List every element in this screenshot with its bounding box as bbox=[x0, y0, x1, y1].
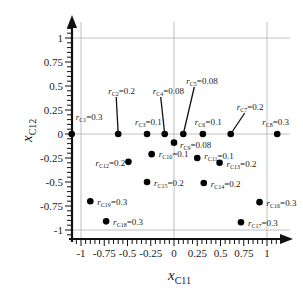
point-marker-icon bbox=[171, 139, 178, 146]
x-tick-label: 1 bbox=[264, 247, 270, 259]
x-tick-label: 0.5 bbox=[214, 247, 228, 259]
data-points: rC1=0.3rC2=0.2rC3=0.1rC4=0.08rC5=0.08rC6… bbox=[68, 76, 297, 229]
leader-line bbox=[231, 113, 245, 134]
data-point-c5: rC5=0.08 bbox=[180, 76, 218, 137]
y-axis-title: xC12 bbox=[19, 119, 38, 143]
axis-ticks bbox=[65, 28, 276, 246]
data-point-c12: rC12=0.2 bbox=[95, 158, 131, 169]
x-tick-label: 0.75 bbox=[234, 247, 254, 259]
data-point-c19: rC19=0.3 bbox=[87, 197, 128, 208]
point-marker-icon bbox=[256, 199, 263, 206]
y-tick-label: -1 bbox=[54, 224, 63, 236]
x-tick-label: 0 bbox=[171, 247, 177, 259]
point-marker-icon bbox=[144, 131, 151, 138]
point-marker-icon bbox=[200, 180, 207, 187]
point-marker-icon bbox=[200, 131, 207, 138]
y-tick-label: 0.25 bbox=[44, 104, 64, 116]
leader-line bbox=[161, 97, 165, 134]
point-marker-icon bbox=[148, 151, 155, 158]
point-label: rC5=0.08 bbox=[186, 76, 218, 87]
y-tick-label: -0.75 bbox=[40, 200, 63, 212]
data-point-c16: rC16=0.3 bbox=[256, 198, 297, 209]
x-tick-label: -0.75 bbox=[93, 247, 116, 259]
point-marker-icon bbox=[103, 218, 110, 225]
point-label: rC6=0.1 bbox=[195, 117, 222, 128]
data-point-c15: rC15=0.2 bbox=[144, 178, 184, 189]
point-label: rC16=0.3 bbox=[267, 198, 297, 209]
scatter-chart: -1-0.75-0.5-0.2500.250.50.75110.750.50.2… bbox=[0, 0, 303, 296]
data-point-c18: rC18=0.3 bbox=[103, 217, 144, 228]
y-tick-label: 0.75 bbox=[44, 56, 64, 68]
data-point-c1: rC1=0.3 bbox=[68, 112, 103, 137]
data-point-c7: rC7=0.2 bbox=[227, 102, 263, 137]
y-axis-arrow-icon bbox=[67, 15, 77, 28]
point-label: rC1=0.3 bbox=[76, 112, 103, 123]
data-point-c10: rC10=0.1 bbox=[148, 149, 188, 160]
x-tick-label: -0.25 bbox=[139, 247, 162, 259]
point-marker-icon bbox=[125, 159, 132, 166]
leader-line bbox=[116, 97, 118, 134]
axes bbox=[67, 15, 293, 244]
point-label: rC8=0.3 bbox=[262, 117, 289, 128]
x-tick-label: -0.5 bbox=[119, 247, 137, 259]
point-label: rC7=0.2 bbox=[237, 102, 264, 113]
point-label: rC12=0.2 bbox=[95, 158, 125, 169]
point-label: rC19=0.3 bbox=[97, 197, 127, 208]
y-tick-label: -0.5 bbox=[46, 176, 64, 188]
y-tick-label: -0.25 bbox=[40, 152, 63, 164]
point-marker-icon bbox=[216, 160, 223, 167]
y-tick-label: 1 bbox=[58, 32, 64, 44]
point-label: rC17=0.3 bbox=[248, 218, 278, 229]
point-marker-icon bbox=[238, 219, 245, 226]
y-tick-label: 0.5 bbox=[49, 80, 63, 92]
point-label: rC14=0.2 bbox=[211, 179, 241, 190]
y-tick-label: 0 bbox=[58, 128, 64, 140]
x-tick-label: 0.25 bbox=[188, 247, 208, 259]
x-axis-title: xC11 bbox=[167, 267, 191, 286]
x-tick-label: -1 bbox=[76, 247, 85, 259]
point-label: rC2=0.2 bbox=[108, 86, 135, 97]
point-label: rC18=0.3 bbox=[113, 217, 143, 228]
data-point-c2: rC2=0.2 bbox=[108, 86, 135, 137]
x-axis-arrow-icon bbox=[280, 234, 293, 244]
point-marker-icon bbox=[68, 131, 75, 138]
tick-labels: -1-0.75-0.5-0.2500.250.50.75110.750.50.2… bbox=[40, 32, 270, 259]
leader-line bbox=[183, 87, 194, 134]
point-label: rC3=0.1 bbox=[135, 117, 162, 128]
point-marker-icon bbox=[274, 131, 281, 138]
point-marker-icon bbox=[87, 198, 94, 205]
point-label: rC4=0.08 bbox=[153, 86, 185, 97]
data-point-c17: rC17=0.3 bbox=[238, 218, 279, 229]
data-point-c14: rC14=0.2 bbox=[200, 179, 240, 190]
point-marker-icon bbox=[144, 179, 151, 186]
point-label: rC15=0.2 bbox=[154, 178, 184, 189]
point-label: rC10=0.1 bbox=[159, 149, 189, 160]
data-point-c4: rC4=0.08 bbox=[153, 86, 185, 137]
point-marker-icon bbox=[194, 155, 201, 162]
